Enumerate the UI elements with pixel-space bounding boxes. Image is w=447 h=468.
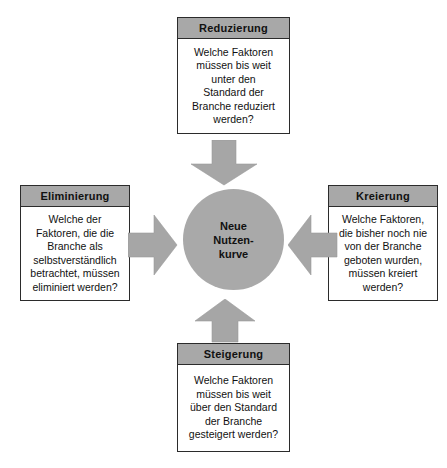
box-kreierung-line-4: geboten wurden, (339, 254, 427, 268)
box-reduzierung-body: Welche Faktoren müssen bis weit unter de… (178, 39, 289, 133)
box-kreierung-line-2: die bisher noch nie (339, 227, 427, 241)
diagram-canvas: Reduzierung Welche Faktoren müssen bis w… (0, 0, 447, 468)
arrow-right-icon (128, 214, 178, 276)
box-reduzierung-line-1: Welche Faktoren (192, 46, 275, 60)
arrow-down-icon (189, 140, 259, 186)
box-steigerung-line-5: gesteigert werden? (189, 428, 278, 442)
box-kreierung-body: Welche Faktoren, die bisher noch nie von… (329, 207, 437, 300)
arrow-left-icon (288, 214, 338, 276)
box-eliminierung-title: Eliminierung (21, 186, 129, 207)
box-kreierung-line-5: müssen kreiert (339, 267, 427, 281)
center-circle-line-3: kurve (213, 247, 253, 261)
box-steigerung-line-1: Welche Faktoren (189, 374, 278, 388)
box-kreierung-title: Kreierung (329, 186, 437, 207)
box-eliminierung-line-1: Welche der (30, 213, 119, 227)
arrow-up-icon (194, 299, 256, 343)
box-kreierung-line-6: werden? (339, 281, 427, 295)
box-kreierung-line-1: Welche Faktoren, (339, 213, 427, 227)
center-circle-line-1: Neue (213, 219, 253, 233)
box-eliminierung-line-2: Faktoren, die die (30, 227, 119, 241)
box-eliminierung: Eliminierung Welche der Faktoren, die di… (20, 185, 130, 301)
box-reduzierung-line-3: unter den (192, 73, 275, 87)
box-steigerung-line-3: über den Standard (189, 401, 278, 415)
box-reduzierung: Reduzierung Welche Faktoren müssen bis w… (177, 17, 290, 134)
box-eliminierung-body: Welche der Faktoren, die die Branche als… (21, 207, 129, 300)
box-steigerung-title: Steigerung (178, 344, 289, 365)
box-reduzierung-line-2: müssen bis weit (192, 59, 275, 73)
box-reduzierung-title: Reduzierung (178, 18, 289, 39)
box-steigerung-body: Welche Faktoren müssen bis weit über den… (178, 365, 289, 451)
box-steigerung: Steigerung Welche Faktoren müssen bis we… (177, 343, 290, 452)
box-eliminierung-line-4: selbstverständlich (30, 254, 119, 268)
box-kreierung-line-3: von der Branche (339, 240, 427, 254)
box-eliminierung-line-5: betrachtet, müssen (30, 267, 119, 281)
box-eliminierung-line-3: Branche als (30, 240, 119, 254)
box-reduzierung-line-5: Branche reduziert (192, 100, 275, 114)
box-steigerung-line-4: der Branche (189, 415, 278, 429)
box-reduzierung-line-4: Standard der (192, 86, 275, 100)
box-eliminierung-line-6: eliminiert werden? (30, 281, 119, 295)
center-circle-line-2: Nutzen- (213, 233, 253, 247)
box-kreierung: Kreierung Welche Faktoren, die bisher no… (328, 185, 438, 301)
center-circle-neue-nutzenkurve: Neue Nutzen- kurve (183, 189, 284, 290)
box-reduzierung-line-6: werden? (192, 113, 275, 127)
box-steigerung-line-2: müssen bis weit (189, 388, 278, 402)
